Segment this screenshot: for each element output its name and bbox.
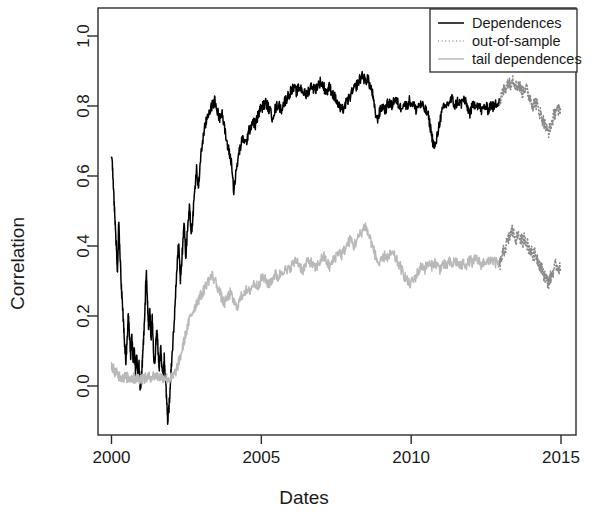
series-line-out-of-sample	[500, 76, 561, 137]
y-axis-title: Correlation	[0, 0, 36, 527]
x-tick-label: 2010	[392, 448, 430, 467]
y-tick-label: 0.2	[74, 304, 93, 328]
y-tick-label: 0.0	[74, 374, 93, 398]
axis-ticks	[89, 36, 561, 444]
x-tick-label: 2000	[93, 448, 131, 467]
series-line-tail-out-of-sample	[500, 225, 561, 288]
y-tick-label: 0.4	[74, 234, 93, 258]
plot-canvas: 0.00.20.40.60.81.02000200520102015 Depen…	[0, 0, 608, 527]
correlation-chart-figure: 0.00.20.40.60.81.02000200520102015 Depen…	[0, 0, 608, 527]
legend-label: out-of-sample	[472, 33, 561, 49]
y-tick-label: 1.0	[74, 24, 93, 48]
y-tick-label: 0.6	[74, 164, 93, 188]
series-layer	[111, 72, 560, 425]
legend-label: tail dependences	[472, 51, 582, 67]
chart-legend: Dependencesout-of-sampletail dependences	[430, 9, 582, 72]
x-tick-label: 2015	[542, 448, 580, 467]
series-line-dependences	[111, 72, 499, 425]
y-tick-label: 0.8	[74, 94, 93, 118]
x-tick-label: 2005	[242, 448, 280, 467]
legend-label: Dependences	[472, 15, 562, 31]
x-axis-title: Dates	[0, 487, 608, 509]
series-line-tail-dependences	[111, 223, 499, 384]
